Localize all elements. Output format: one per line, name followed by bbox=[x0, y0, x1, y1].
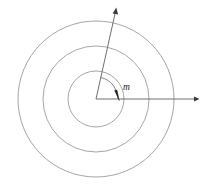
inclined-ray bbox=[96, 13, 115, 100]
horizontal-ray-arrowhead bbox=[194, 96, 200, 101]
figure-canvas: m bbox=[0, 0, 208, 190]
concentric-circles-diagram bbox=[0, 0, 208, 190]
angle-label: m bbox=[123, 83, 130, 93]
inclined-ray-arrowhead bbox=[113, 8, 119, 15]
angle-arc bbox=[101, 78, 118, 100]
